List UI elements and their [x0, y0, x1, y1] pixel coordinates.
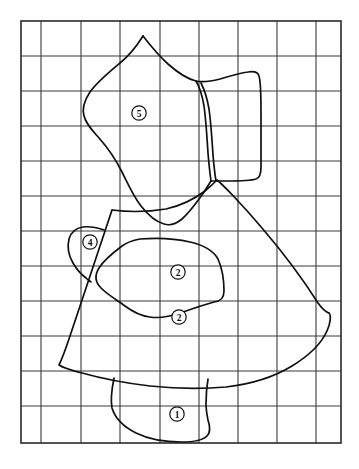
canvas-background — [0, 0, 359, 469]
zone-label-3-text: 2 — [176, 268, 181, 278]
zone-label-1: 1 — [170, 407, 184, 421]
zone-label-5-text: 5 — [137, 109, 142, 119]
zone-label-4-text: 4 — [88, 238, 93, 248]
zone-label-3: 2 — [171, 265, 185, 279]
figure-root: 5 4 2 2 1 — [0, 0, 359, 469]
zone-label-2-text: 2 — [177, 313, 182, 323]
plan-drawing: 5 4 2 2 1 — [0, 0, 359, 469]
zone-label-5: 5 — [132, 106, 146, 120]
zone-label-4: 4 — [83, 235, 97, 249]
zone-label-2: 2 — [172, 310, 186, 324]
zone-label-1-text: 1 — [175, 410, 180, 420]
